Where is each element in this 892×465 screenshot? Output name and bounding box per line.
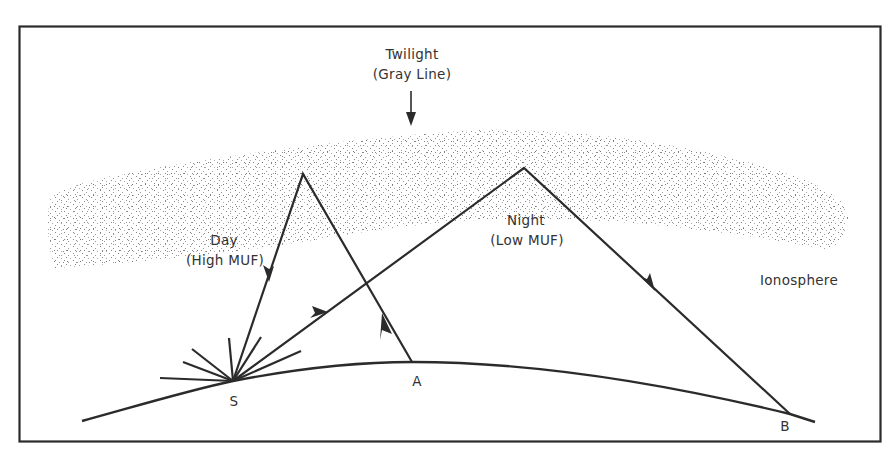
- arrow-down-icon: [406, 112, 416, 126]
- ionosphere-label: Ionosphere: [752, 272, 846, 289]
- low-muf-label: (Low MUF): [482, 232, 572, 249]
- night-label: Night: [498, 212, 554, 229]
- antenna-radiation-fan: [160, 337, 301, 381]
- point-b-label: B: [777, 418, 793, 435]
- high-muf-label: (High MUF): [178, 252, 272, 269]
- point-s-label: S: [226, 393, 242, 410]
- twilight-pointer: [406, 91, 416, 126]
- arrow-down-right-icon: [641, 273, 655, 291]
- earth-surface: [82, 362, 815, 422]
- point-a-label: A: [409, 373, 425, 390]
- day-label: Day: [200, 232, 248, 249]
- propagation-diagram: Twilight (Gray Line) Day (High MUF) Nigh…: [0, 0, 892, 465]
- twilight-label: Twilight: [371, 46, 453, 63]
- arrow-up-right-icon: [310, 306, 328, 318]
- ionosphere-band: [48, 130, 848, 268]
- gray-line-label: (Gray Line): [364, 66, 460, 83]
